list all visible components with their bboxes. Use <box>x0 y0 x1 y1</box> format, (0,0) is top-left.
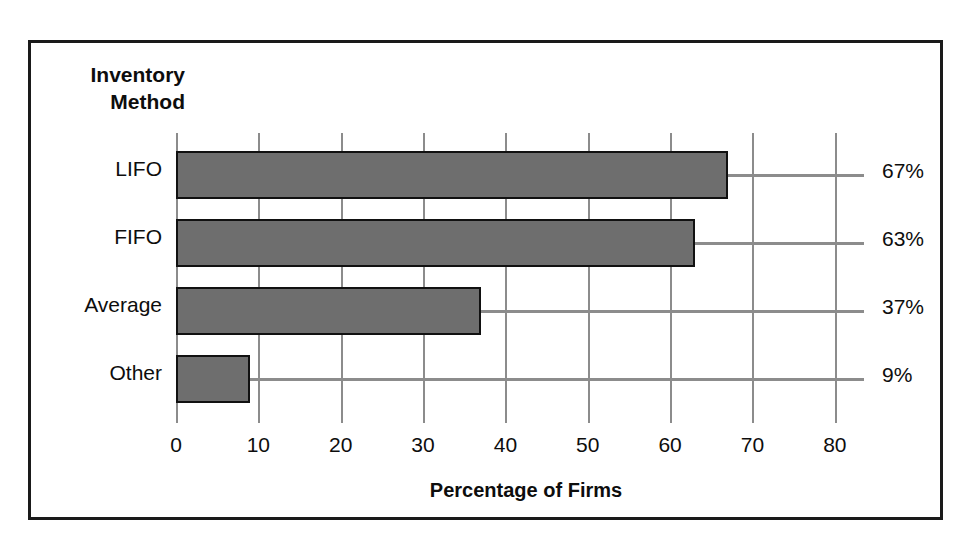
bar-lifo[interactable] <box>176 151 728 199</box>
category-label-other: Other <box>109 361 162 385</box>
x-tick-label-0: 0 <box>170 433 182 457</box>
bar-row: Other9% <box>176 345 876 413</box>
value-label-average: 37% <box>882 295 924 319</box>
bar-row: FIFO63% <box>176 209 876 277</box>
x-axis-label: Percentage of Firms <box>176 479 876 502</box>
bar-average[interactable] <box>176 287 481 335</box>
value-label-other: 9% <box>882 363 912 387</box>
category-label-average: Average <box>84 293 162 317</box>
x-tick-label-70: 70 <box>741 433 764 457</box>
category-axis-title: Inventory Method <box>55 61 185 115</box>
x-tick-label-80: 80 <box>823 433 846 457</box>
bar-row: LIFO67% <box>176 141 876 209</box>
chart-figure: Inventory Method 01020304050607080LIFO67… <box>28 40 943 520</box>
x-tick-label-50: 50 <box>576 433 599 457</box>
x-tick-label-40: 40 <box>494 433 517 457</box>
x-tick-label-60: 60 <box>658 433 681 457</box>
leader-line <box>728 174 864 177</box>
bar-fifo[interactable] <box>176 219 695 267</box>
value-label-fifo: 63% <box>882 227 924 251</box>
leader-line <box>481 310 864 313</box>
bar-row: Average37% <box>176 277 876 345</box>
value-label-lifo: 67% <box>882 159 924 183</box>
x-tick-label-10: 10 <box>247 433 270 457</box>
category-label-lifo: LIFO <box>115 157 162 181</box>
plot-area: 01020304050607080LIFO67%FIFO63%Average37… <box>176 133 876 423</box>
leader-line <box>250 378 864 381</box>
x-tick-label-30: 30 <box>411 433 434 457</box>
category-label-fifo: FIFO <box>114 225 162 249</box>
leader-line <box>695 242 864 245</box>
bar-other[interactable] <box>176 355 250 403</box>
x-tick-label-20: 20 <box>329 433 352 457</box>
